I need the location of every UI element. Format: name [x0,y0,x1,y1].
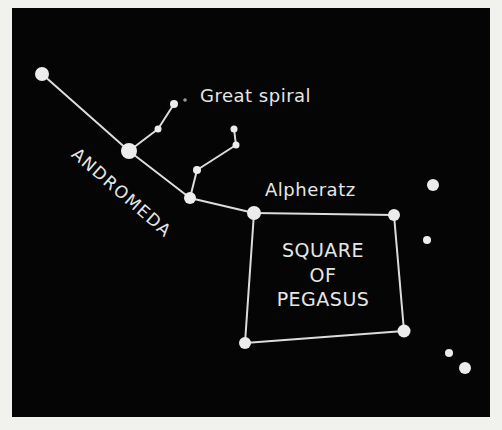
star-field-1 [427,179,439,191]
star-branch2-b [233,142,240,149]
star-branch1-a [155,126,162,133]
square-label-line1: SQUARE [282,239,364,261]
star-and-2 [121,143,137,159]
star-and-1 [35,67,49,81]
star-chart: Great spiral ANDROMEDA Alpheratz SQUARE … [0,0,502,430]
square-label-line2: OF [310,264,337,286]
star-field-2 [423,236,431,244]
star-branch2-a [193,166,201,174]
star-peg-se [398,325,411,338]
great-spiral-label: Great spiral [200,85,311,106]
star-field-3 [445,349,453,357]
star-branch2-c [231,126,238,133]
star-and-3 [184,192,196,204]
star-peg-sw [239,337,251,349]
star-field-4 [459,362,471,374]
alpheratz-label: Alpheratz [265,179,356,200]
star-alpheratz [247,206,261,220]
star-branch1-b [170,100,178,108]
great-spiral-galaxy-marker [183,98,187,102]
square-label-line3: PEGASUS [277,288,370,310]
star-peg-ne [388,209,400,221]
